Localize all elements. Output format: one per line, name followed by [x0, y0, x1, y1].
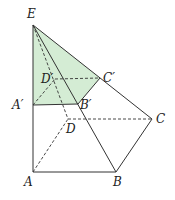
- label-A: A: [23, 175, 33, 189]
- edge-BC: [116, 119, 152, 172]
- geometry-figure: E A′ B′ C′ D′ A B C D: [0, 0, 175, 200]
- label-A-prime: A′: [11, 98, 24, 112]
- label-C-prime: C′: [103, 71, 115, 85]
- label-C: C: [156, 112, 165, 126]
- hidden-edge-AD: [33, 119, 68, 172]
- label-D: D: [65, 122, 76, 136]
- pyramid-diagram: E A′ B′ C′ D′ A B C D: [0, 0, 175, 200]
- label-D-prime: D′: [40, 72, 54, 86]
- label-E: E: [26, 7, 36, 21]
- label-B: B: [112, 175, 122, 189]
- label-B-prime: B′: [79, 98, 92, 112]
